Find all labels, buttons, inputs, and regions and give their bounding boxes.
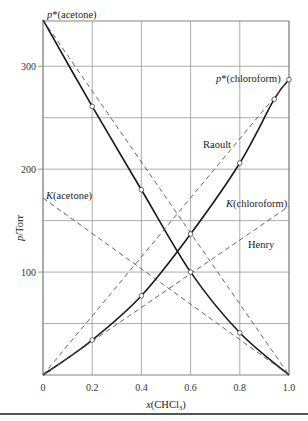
data-point-marker [238, 331, 243, 336]
label-k-chloroform: K(chloroform) [225, 198, 288, 210]
x-axis-label: x(CHCl3) [145, 399, 186, 412]
series-raoult-chloroform [43, 80, 289, 375]
data-point-marker [139, 293, 144, 298]
data-point-marker [90, 338, 95, 343]
x-tick-label: 0 [41, 382, 46, 393]
axis-ticks: 10020030000.20.40.60.81.0 [21, 61, 295, 393]
x-tick-label: 0.2 [86, 382, 99, 393]
x-tick-label: 0.8 [234, 382, 247, 393]
vapor-pressure-chart: 10020030000.20.40.60.81.0 p*(acetone) p*… [0, 0, 308, 421]
y-axis-label: p/Torr [14, 214, 25, 242]
bottom-rule [0, 413, 308, 415]
data-point-marker [90, 104, 95, 109]
x-tick-label: 0.6 [184, 382, 197, 393]
x-tick-label: 0.4 [135, 382, 148, 393]
y-tick-label: 100 [21, 267, 36, 278]
label-k-acetone: K(acetone) [45, 190, 93, 202]
data-point-marker [188, 232, 193, 237]
data-point-marker [188, 270, 193, 275]
label-p-star-acetone: p*(acetone) [46, 9, 97, 21]
y-tick-label: 200 [21, 164, 36, 175]
data-point-marker [272, 97, 277, 102]
label-raoult: Raoult [203, 139, 231, 150]
x-tick-label: 1.0 [283, 382, 296, 393]
label-p-star-chloroform: p*(chloroform) [215, 73, 281, 85]
data-point-marker [287, 77, 292, 82]
label-henry: Henry [248, 239, 275, 250]
data-point-marker [238, 161, 243, 166]
y-tick-label: 300 [21, 61, 36, 72]
data-point-marker [139, 187, 144, 192]
